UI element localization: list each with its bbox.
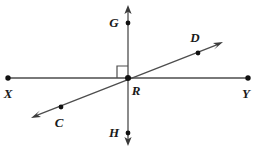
geometry-diagram: X Y G H D C R: [0, 0, 255, 147]
point-g: [126, 21, 131, 26]
label-d: D: [189, 30, 200, 45]
label-x: X: [3, 86, 13, 101]
point-x: [5, 75, 10, 80]
diagram-canvas: X Y G H D C R: [0, 0, 255, 147]
label-y: Y: [242, 86, 251, 101]
label-r: R: [131, 83, 141, 98]
point-d: [196, 51, 201, 56]
label-g: G: [109, 15, 119, 30]
point-c: [59, 105, 64, 110]
point-h: [126, 131, 131, 136]
point-y: [245, 75, 250, 80]
label-c: C: [55, 115, 64, 130]
label-h: H: [108, 125, 120, 140]
point-r: [125, 75, 131, 81]
